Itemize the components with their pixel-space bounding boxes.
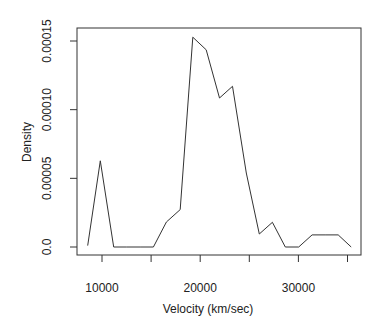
plot-frame <box>77 28 361 255</box>
y-tick-label: 0.00005 <box>40 156 54 200</box>
x-axis: 100002000030000 <box>85 255 347 295</box>
density-line <box>88 37 352 247</box>
x-axis-title: Velocity (km/sec) <box>163 302 254 316</box>
y-tick-label: 0.00015 <box>40 19 54 63</box>
y-tick-label: 0.0 <box>40 238 54 255</box>
y-axis: 0.00.000050.000100.00015 <box>40 19 77 255</box>
x-tick-label: 10000 <box>85 281 119 295</box>
y-axis-title: Density <box>20 122 34 162</box>
y-tick-label: 0.00010 <box>40 88 54 132</box>
x-tick-label: 30000 <box>282 281 316 295</box>
density-chart: 0.00.000050.000100.00015 100002000030000… <box>0 0 379 332</box>
x-tick-label: 20000 <box>184 281 218 295</box>
